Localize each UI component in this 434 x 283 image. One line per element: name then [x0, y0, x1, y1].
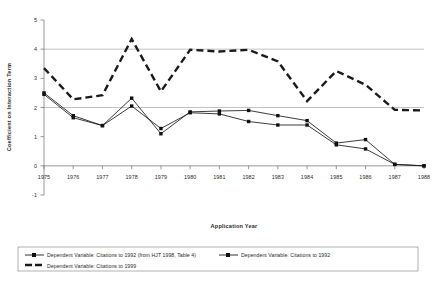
data-point-hjt-1978: [130, 104, 133, 107]
data-point-1992-1982: [247, 109, 250, 112]
data-point-1992-1978: [130, 96, 133, 99]
x-tick-label-1981: 1981: [213, 174, 225, 180]
legend-icon-square-2: [226, 253, 230, 257]
x-tick-label-1982: 1982: [242, 174, 254, 180]
x-tick-label-1986: 1986: [359, 174, 371, 180]
data-point-1992-1983: [276, 114, 279, 117]
data-point-1992-1985: [335, 141, 338, 144]
x-tick-label-1983: 1983: [272, 174, 284, 180]
x-tick-label-1988: 1988: [418, 174, 430, 180]
x-tick-label-1984: 1984: [301, 174, 313, 180]
data-point-1992-1988: [422, 164, 425, 167]
chart-background: [0, 0, 434, 283]
x-tick-label-1977: 1977: [96, 174, 108, 180]
data-point-hjt-1979: [159, 127, 162, 130]
y-tick-label-neg1: -1: [32, 192, 37, 198]
x-tick-label-1980: 1980: [184, 174, 196, 180]
data-point-1992-1979: [159, 132, 162, 135]
data-point-1992-1977: [101, 124, 104, 127]
legend-label-1: Dependent Variable: Citations to 1992 (f…: [47, 252, 196, 258]
data-point-hjt-1981: [218, 112, 221, 115]
legend-label-2: Dependent Variable: Citations to 1992: [241, 252, 330, 258]
x-tick-label-1987: 1987: [389, 174, 401, 180]
x-tick-label-1978: 1978: [125, 174, 137, 180]
y-tick-label-2: 2: [34, 105, 37, 111]
y-tick-label-0: 0: [34, 163, 37, 169]
x-tick-label-1975: 1975: [38, 174, 50, 180]
data-point-1992-1976: [72, 114, 75, 117]
data-point-1992-1980: [188, 110, 191, 113]
coefficient-line-chart: 5 4 3 2 1 0 -1 1975197619771978197919801…: [0, 0, 434, 283]
data-point-hjt-1984: [305, 123, 308, 126]
data-point-1992-1984: [305, 119, 308, 122]
legend-icon-square-1: [32, 253, 36, 257]
x-tick-label-1979: 1979: [155, 174, 167, 180]
data-point-hjt-1982: [247, 120, 250, 123]
chart-figure: 5 4 3 2 1 0 -1 1975197619771978197919801…: [0, 0, 434, 283]
x-axis-title: Application Year: [211, 223, 259, 229]
y-tick-label-3: 3: [34, 75, 37, 81]
x-tick-label-1985: 1985: [330, 174, 342, 180]
data-point-1992-1987: [393, 163, 396, 166]
data-point-1992-1975: [42, 91, 45, 94]
y-tick-label-5: 5: [34, 17, 37, 23]
y-tick-label-4: 4: [34, 46, 37, 52]
data-point-1992-1986: [364, 138, 367, 141]
x-tick-label-1976: 1976: [67, 174, 79, 180]
y-axis-title: Coefficient on Interaction Term: [6, 63, 12, 151]
y-tick-label-1: 1: [34, 134, 37, 140]
data-point-hjt-1983: [276, 123, 279, 126]
legend-label-3: Dependent Variable: Citations to 1999: [47, 263, 136, 269]
data-point-1992-1981: [218, 109, 221, 112]
data-point-hjt-1986: [364, 147, 367, 150]
